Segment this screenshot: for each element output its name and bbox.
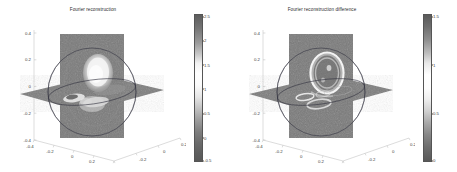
svg-text:-0.2: -0.2: [253, 111, 261, 116]
colorbar-tick-label: 0: [204, 135, 206, 140]
colorbar-ticks-right: 1.5 1 0.5 0: [433, 14, 453, 162]
y-axis-tick-labels-right: 0.4 0.2 0 -0.2 -0.4: [253, 31, 261, 143]
colorbar-gradient-right: [423, 14, 432, 162]
svg-text:0: 0: [392, 149, 395, 154]
plot-panel-left: Fourier reconstruction: [0, 0, 228, 172]
figure-window: Fourier reconstruction: [0, 0, 457, 172]
svg-text:-0.4: -0.4: [26, 144, 34, 149]
svg-text:-0.4: -0.4: [346, 165, 354, 167]
svg-text:0: 0: [258, 84, 261, 89]
svg-text:-0.4: -0.4: [255, 144, 263, 149]
colorbar-tick-label: 2: [204, 38, 206, 43]
svg-text:0.2: 0.2: [254, 57, 261, 62]
plot-panel-right: Fourier reconstruction difference: [229, 0, 457, 172]
svg-text:0.4: 0.4: [25, 31, 32, 36]
svg-text:-0.2: -0.2: [46, 149, 54, 154]
y-axis-tick-labels-left: 0.4 0.2 0 -0.2 -0.4: [24, 31, 32, 143]
svg-text:0.2: 0.2: [181, 142, 186, 147]
x-depth-axis-tick-labels-right: -0.4 -0.2 0 0.2: [346, 142, 415, 167]
svg-text:-0.2: -0.2: [368, 157, 376, 162]
svg-text:-0.4: -0.4: [24, 138, 32, 143]
colorbar-tick-label: 0.5: [204, 111, 210, 116]
svg-text:0: 0: [163, 149, 166, 154]
colorbar-tick-label: 0: [433, 158, 435, 163]
x-front-axis-tick-labels-right: -0.4 -0.2 0 0.2 0.4: [255, 144, 344, 167]
plot-title-right: Fourier reconstruction difference: [229, 7, 415, 12]
svg-text:-0.4: -0.4: [253, 138, 261, 143]
colorbar-left: 2.5 2 1.5 1 0.5 0 -0.5: [194, 14, 224, 162]
svg-text:0.2: 0.2: [89, 159, 96, 164]
svg-text:0.2: 0.2: [410, 142, 415, 147]
svg-text:0.2: 0.2: [25, 57, 32, 62]
colorbar-tick-label: 1.5: [433, 14, 439, 19]
svg-text:-0.2: -0.2: [139, 157, 147, 162]
plot-title-left: Fourier reconstruction: [0, 7, 186, 12]
colorbar-tick-label: -0.5: [204, 158, 211, 163]
svg-text:0.4: 0.4: [338, 165, 345, 167]
colorbar-tick-label: 1: [204, 86, 206, 91]
colorbar-right: 1.5 1 0.5 0: [423, 14, 453, 162]
axes-3d-right: 0.4 0.2 0 -0.2 -0.4 -0.4 -0.2 0 0.2 0.4 …: [243, 18, 415, 166]
axes-3d-left: 0.4 0.2 0 -0.2 -0.4 -0.4 -0.2 0 0.2 0.4 …: [14, 18, 186, 166]
colorbar-tick-label: 1.5: [204, 62, 210, 67]
x-front-axis-tick-labels-left: -0.4 -0.2 0 0.2 0.4: [26, 144, 115, 167]
colorbar-tick-label: 2.5: [204, 14, 210, 19]
colorbar-tick-label: 1: [433, 62, 435, 67]
svg-text:0.4: 0.4: [254, 31, 261, 36]
x-depth-axis-tick-labels-left: -0.4 -0.2 0 0.2: [117, 142, 186, 167]
svg-text:-0.2: -0.2: [275, 149, 283, 154]
svg-text:0: 0: [300, 154, 303, 159]
svg-text:0.4: 0.4: [109, 165, 116, 167]
svg-text:0: 0: [71, 154, 74, 159]
colorbar-ticks-left: 2.5 2 1.5 1 0.5 0 -0.5: [204, 14, 224, 162]
svg-text:-0.4: -0.4: [117, 165, 125, 167]
svg-text:0: 0: [29, 84, 32, 89]
svg-text:-0.2: -0.2: [24, 111, 32, 116]
colorbar-tick-label: 0.5: [433, 111, 439, 116]
svg-text:0.2: 0.2: [318, 159, 325, 164]
